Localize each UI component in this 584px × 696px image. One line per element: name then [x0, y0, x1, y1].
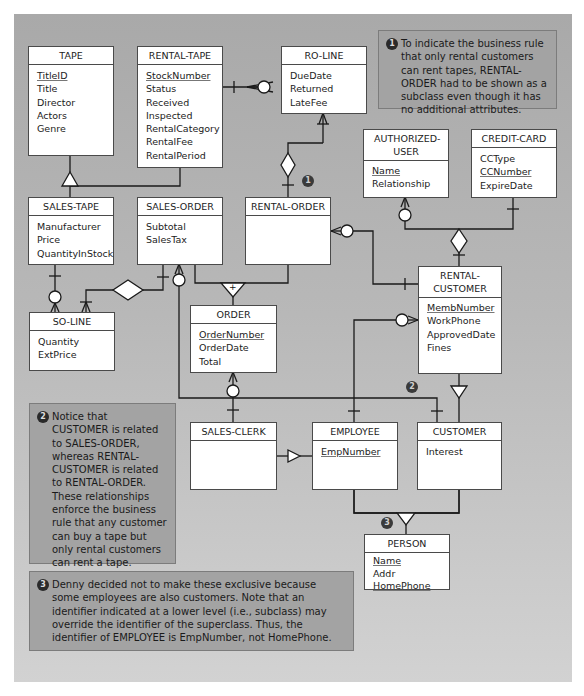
entity-name: PERSON	[365, 535, 449, 553]
attribute: ExtPrice	[38, 348, 114, 361]
attribute: Total	[199, 355, 276, 368]
attribute: Manufacturer	[37, 220, 113, 233]
entity-name: RENTAL-ORDER	[246, 198, 330, 216]
attribute: OrderDate	[199, 341, 276, 354]
entity-rental-order[interactable]: RENTAL-ORDER	[245, 197, 331, 265]
attribute: Relationship	[372, 177, 448, 190]
note-2: 2 Notice that CUSTOMER is related to SAL…	[29, 403, 176, 564]
exclusive-plus-symbol: +	[229, 282, 237, 292]
entity-sales-order[interactable]: SALES-ORDER Subtotal SalesTax	[137, 197, 223, 265]
entity-sales-clerk[interactable]: SALES-CLERK	[190, 422, 277, 490]
attribute: Addr	[373, 568, 449, 581]
attribute: ExpireDate	[480, 179, 556, 192]
note-3: 3 Denny decided not to make these exclus…	[29, 571, 354, 651]
attribute: TitleID	[37, 69, 113, 82]
attribute: Price	[37, 233, 113, 246]
attribute: DueDate	[290, 69, 366, 82]
attribute: MembNumber	[427, 301, 501, 314]
marker-1: 1	[302, 175, 314, 187]
note-number-badge: 2	[37, 411, 49, 423]
attribute: Interest	[426, 445, 501, 458]
marker-2: 2	[406, 381, 418, 393]
entity-so-line[interactable]: SO-LINE Quantity ExtPrice	[29, 312, 115, 371]
entity-authorized-user[interactable]: AUTHORIZED-USER Name Relationship	[363, 129, 449, 198]
attribute: QuantityInStock	[37, 247, 113, 260]
attribute: Received	[146, 96, 222, 109]
entity-name: CREDIT-CARD	[472, 130, 556, 148]
note-text: Denny decided not to make these exclusiv…	[52, 579, 332, 643]
attribute: Returned	[290, 82, 366, 95]
entity-person[interactable]: PERSON Name Addr HomePhone	[364, 534, 450, 590]
attribute: Quantity	[38, 335, 114, 348]
entity-credit-card[interactable]: CREDIT-CARD CCType CCNumber ExpireDate	[471, 129, 557, 198]
entity-name: RENTAL-CUSTOMER	[419, 267, 501, 298]
attribute: Name	[372, 164, 448, 177]
note-1: 1 To indicate the business rule that onl…	[378, 30, 557, 109]
entity-name: SALES-TAPE	[29, 198, 113, 216]
note-text: To indicate the business rule that only …	[401, 38, 547, 115]
attribute: Title	[37, 82, 113, 95]
entity-name: SALES-CLERK	[191, 423, 276, 441]
attribute: OrderNumber	[199, 328, 276, 341]
note-number-badge: 1	[386, 38, 398, 50]
entity-name: EMPLOYEE	[313, 423, 397, 441]
entity-name: RENTAL-TAPE	[138, 47, 222, 65]
attribute: ApprovedDate	[427, 328, 501, 341]
attribute: LateFee	[290, 96, 366, 109]
attribute: HomePhone	[373, 580, 449, 593]
attribute: Genre	[37, 122, 113, 135]
entity-name: TAPE	[29, 47, 113, 65]
attribute: Actors	[37, 109, 113, 122]
attribute: RentalCategory	[146, 122, 222, 135]
attribute: Name	[373, 555, 449, 568]
attribute: WorkPhone	[427, 314, 501, 327]
attribute: CCType	[480, 152, 556, 165]
entity-name: AUTHORIZED-USER	[364, 130, 448, 161]
entity-rental-customer[interactable]: RENTAL-CUSTOMER MembNumber WorkPhone App…	[418, 266, 502, 374]
entity-rental-tape[interactable]: RENTAL-TAPE StockNumber Status Received …	[137, 46, 223, 168]
entity-name: RO-LINE	[282, 47, 366, 65]
entity-name: SALES-ORDER	[138, 198, 222, 216]
note-number-badge: 3	[37, 579, 49, 591]
attribute: SalesTax	[146, 233, 222, 246]
entity-sales-tape[interactable]: SALES-TAPE Manufacturer Price QuantityIn…	[28, 197, 114, 265]
entity-employee[interactable]: EMPLOYEE EmpNumber	[312, 422, 398, 490]
marker-3: 3	[381, 517, 393, 529]
entity-name: CUSTOMER	[418, 423, 501, 441]
entity-ro-line[interactable]: RO-LINE DueDate Returned LateFee	[281, 46, 367, 114]
entity-name: SO-LINE	[30, 313, 114, 331]
attribute: RentalPeriod	[146, 149, 222, 162]
entity-order[interactable]: ORDER OrderNumber OrderDate Total	[190, 305, 277, 373]
attribute: RentalFee	[146, 135, 222, 148]
note-text: Notice that CUSTOMER is related to SALES…	[52, 411, 167, 568]
attribute: Subtotal	[146, 220, 222, 233]
attribute: Director	[37, 96, 113, 109]
attribute: Status	[146, 82, 222, 95]
attribute: StockNumber	[146, 69, 222, 82]
entity-tape[interactable]: TAPE TitleID Title Director Actors Genre	[28, 46, 114, 156]
attribute: Fines	[427, 341, 501, 354]
entity-customer[interactable]: CUSTOMER Interest	[417, 422, 502, 490]
attribute: Inspected	[146, 109, 222, 122]
attribute: CCNumber	[480, 165, 556, 178]
entity-name: ORDER	[191, 306, 276, 324]
attribute: EmpNumber	[321, 445, 397, 458]
